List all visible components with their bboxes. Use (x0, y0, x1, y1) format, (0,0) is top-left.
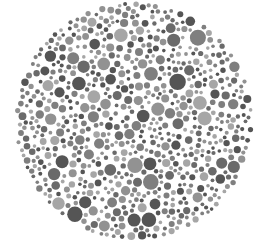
plate-dot (238, 156, 245, 163)
plate-dot (61, 180, 65, 184)
plate-dot (134, 96, 143, 105)
plate-dot (114, 124, 120, 130)
plate-dot (35, 89, 40, 94)
plate-dot (186, 90, 194, 98)
plate-dot (33, 164, 37, 168)
plate-dot (93, 196, 97, 200)
plate-dot (157, 187, 161, 191)
plate-dot (61, 33, 65, 37)
plate-dot (240, 89, 244, 93)
plate-dot (118, 70, 125, 77)
plate-dot (137, 110, 150, 123)
plate-dot (144, 157, 157, 170)
plate-dot (33, 135, 37, 139)
plate-dot (150, 135, 154, 139)
plate-dot (127, 49, 132, 54)
plate-dot (84, 213, 88, 217)
plate-dot (184, 201, 188, 205)
plate-dot (239, 84, 243, 88)
plate-dot (106, 44, 114, 52)
plate-dot (86, 127, 91, 132)
plate-dot (193, 216, 199, 222)
plate-dot (142, 124, 146, 128)
plate-dot (110, 187, 114, 191)
plate-dot (169, 228, 175, 234)
plate-dot (236, 125, 240, 129)
plate-dot (142, 20, 149, 27)
plate-dot (140, 198, 144, 202)
plate-dot (87, 82, 91, 86)
plate-dot (151, 10, 155, 14)
plate-dot (218, 101, 225, 108)
plate-dot (42, 97, 46, 101)
plate-dot (161, 142, 169, 150)
plate-dot (176, 134, 181, 139)
plate-dot (185, 216, 189, 220)
plate-dot (96, 161, 102, 167)
plate-dot (107, 33, 114, 40)
plate-dot (184, 52, 188, 56)
plate-dot (134, 150, 138, 154)
plate-dot (140, 105, 144, 109)
plate-dot (144, 82, 150, 88)
plate-dot (223, 190, 227, 194)
plate-dot (72, 153, 77, 158)
plate-dot (132, 139, 136, 143)
plate-dot (30, 126, 35, 131)
plate-dot (207, 132, 211, 136)
plate-dot (170, 54, 174, 58)
plate-dot (169, 89, 173, 93)
plate-dot (248, 127, 253, 132)
plate-dot (45, 50, 56, 61)
plate-dot (160, 137, 164, 141)
plate-dot (188, 28, 192, 32)
plate-dot (210, 100, 216, 106)
plate-dot (191, 162, 197, 168)
plate-dot (107, 132, 111, 136)
plate-dot (127, 180, 132, 185)
plate-dot (158, 126, 162, 130)
plate-dot (147, 29, 151, 33)
plate-dot (240, 104, 246, 110)
plate-dot (73, 119, 77, 123)
plate-dot (40, 138, 47, 145)
plate-dot (133, 2, 138, 7)
plate-dot (163, 90, 167, 94)
plate-dot (37, 124, 41, 128)
plate-dot (162, 123, 168, 129)
plate-dot (124, 172, 128, 176)
plate-dot (225, 184, 230, 189)
plate-dot (242, 80, 246, 84)
plate-dot (132, 121, 142, 131)
plate-dot (172, 48, 176, 52)
plate-dot (136, 26, 144, 34)
plate-dot (83, 44, 88, 49)
plate-dot (89, 59, 94, 64)
plate-dot (226, 120, 230, 124)
plate-dot (113, 208, 121, 216)
plate-dot (135, 83, 143, 91)
plate-dot (153, 46, 159, 52)
plate-dot (28, 99, 32, 103)
plate-dot (179, 67, 183, 71)
plate-dot (155, 135, 159, 139)
plate-dot (26, 166, 30, 170)
plate-dot (67, 207, 82, 222)
plate-dot (103, 177, 107, 181)
plate-dot (61, 211, 65, 215)
plate-dot (98, 170, 104, 176)
plate-dot (201, 202, 205, 206)
plate-dot (67, 52, 79, 64)
plate-dot (162, 232, 166, 236)
plate-dot (100, 232, 104, 236)
plate-dot (131, 144, 135, 148)
plate-dot (121, 85, 128, 92)
plate-dot (64, 70, 68, 74)
plate-dot (134, 197, 139, 202)
plate-dot (159, 169, 163, 173)
plate-dot (211, 44, 215, 48)
plate-dot (104, 164, 116, 176)
plate-dot (113, 91, 122, 100)
plate-dot (88, 18, 97, 27)
plate-dot (234, 146, 241, 153)
